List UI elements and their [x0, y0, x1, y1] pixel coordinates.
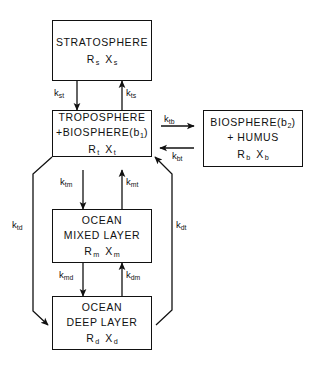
node-biosphere[interactable]: BIOSPHERE(b2) + HUMUS RbXb: [203, 110, 303, 167]
rate-label-k-bt: kbt: [172, 150, 182, 161]
rate-label-k-tb: ktb: [164, 113, 174, 124]
node-stratosphere-variables: RsXs: [87, 52, 118, 67]
rate-label-k-td: ktd: [12, 219, 22, 230]
node-ocean-mixed-layer[interactable]: OCEAN MIXED LAYER RmXm: [52, 209, 152, 263]
arrow-layer: [0, 0, 315, 369]
node-stratosphere[interactable]: STRATOSPHERE RsXs: [52, 20, 152, 81]
node-ocean-deep-layer-label-line2: DEEP LAYER: [67, 315, 138, 330]
node-biosphere-label: BIOSPHERE(b2): [210, 115, 295, 130]
rate-label-k-ts: kts: [126, 87, 136, 98]
rate-label-k-st: kst: [54, 87, 64, 98]
carbon-cycle-box-diagram: STRATOSPHERE RsXs TROPOSPHERE +BIOSPHERE…: [0, 0, 315, 369]
node-ocean-mixed-layer-label-line1: OCEAN: [82, 213, 122, 228]
node-ocean-deep-layer-label-line1: OCEAN: [82, 300, 122, 315]
arrow-k-dt: [155, 157, 172, 325]
node-ocean-deep-layer-variables: RdXd: [86, 331, 117, 346]
node-stratosphere-label: STRATOSPHERE: [56, 35, 148, 50]
node-troposphere-variables: RtXt: [88, 142, 115, 157]
node-troposphere-biosphere-label: +BIOSPHERE(b1): [56, 125, 148, 140]
node-ocean-mixed-layer-label-line2: MIXED LAYER: [64, 228, 140, 243]
rate-label-k-dm: kdm: [126, 269, 140, 280]
node-troposphere-label: TROPOSPHERE: [58, 110, 145, 125]
node-ocean-mixed-layer-variables: RmXm: [84, 244, 119, 259]
arrow-k-td: [33, 157, 52, 325]
rate-label-k-dt: kdt: [176, 219, 186, 230]
node-troposphere[interactable]: TROPOSPHERE +BIOSPHERE(b1) RtXt: [52, 110, 152, 157]
rate-label-k-md: kmd: [59, 269, 73, 280]
rate-label-k-mt: kmt: [126, 176, 138, 187]
node-biosphere-variables: RbXb: [237, 147, 268, 162]
rate-label-k-tm: ktm: [60, 176, 72, 187]
node-biosphere-humus-label: + HUMUS: [227, 130, 279, 145]
node-ocean-deep-layer[interactable]: OCEAN DEEP LAYER RdXd: [52, 296, 152, 350]
